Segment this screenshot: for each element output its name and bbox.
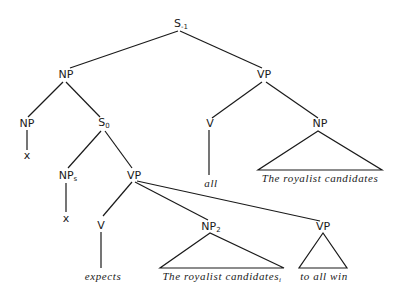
leaf-expects: expects — [85, 270, 122, 282]
leaf-all: all — [204, 177, 217, 189]
node-np-right: NP — [313, 118, 328, 130]
node-vp-mid: VP — [127, 170, 141, 182]
leaf-x-mid: x — [63, 213, 70, 225]
node-vp-top: VP — [257, 69, 271, 81]
node-np-s: NPs — [59, 170, 78, 185]
node-np-left: NP — [20, 118, 35, 130]
leaf-royalist-candidates-top: The royalist candidates — [262, 172, 379, 184]
tree-edges — [0, 0, 401, 295]
node-np-top: NP — [59, 69, 74, 81]
node-s0: S0 — [98, 117, 109, 132]
node-v-mid: V — [97, 220, 105, 232]
node-np-2: NP2 — [201, 221, 220, 236]
node-v-right: V — [206, 118, 214, 130]
node-s-minus-1: S-1 — [174, 18, 188, 33]
leaf-to-all-win: to all win — [300, 270, 348, 282]
leaf-royalist-candidates-bottom: The royalist candidatesi — [162, 270, 281, 286]
leaf-x-left: x — [24, 150, 31, 162]
node-vp-bottom: VP — [316, 221, 330, 233]
